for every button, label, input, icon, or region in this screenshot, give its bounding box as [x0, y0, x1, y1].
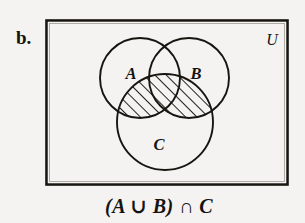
- universal-set-label: U: [266, 31, 279, 48]
- set-label-a: A: [124, 64, 136, 83]
- venn-diagram-canvas: A B C U b. (A ∪ B) ∩ C: [0, 0, 305, 223]
- item-label: b.: [16, 27, 31, 48]
- figure-caption: (A ∪ B) ∩ C: [105, 195, 213, 218]
- venn-diagram-figure: A B C U b. (A ∪ B) ∩ C: [0, 0, 305, 223]
- set-label-b: B: [189, 64, 201, 83]
- set-label-c: C: [153, 135, 165, 154]
